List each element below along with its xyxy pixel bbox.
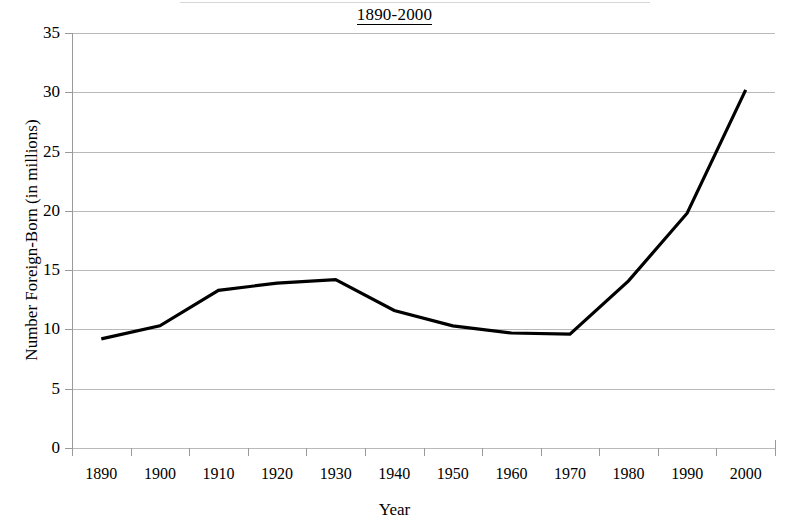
series-line-foreign-born [101,90,745,339]
chart-container: 1890-2000 05101520253035 189019001910192… [0,0,789,530]
x-axis-title: Year [0,500,789,520]
data-series-layer [0,0,789,530]
y-axis-title: Number Foreign-Born (in millions) [22,40,42,440]
